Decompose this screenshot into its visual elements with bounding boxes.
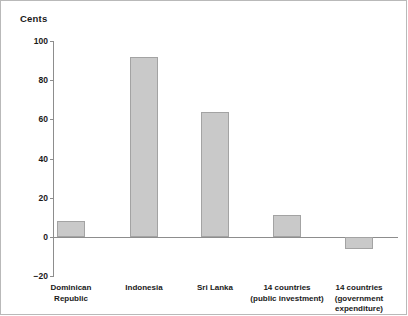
y-axis-tick-label: 80: [39, 75, 48, 85]
y-axis-tick-label: 40: [39, 154, 48, 164]
y-axis-tick-label: 100: [34, 36, 48, 46]
y-axis-tick-mark: [50, 80, 54, 81]
bar: [201, 112, 229, 237]
y-axis-tick-mark: [50, 237, 54, 238]
y-axis-tick-mark: [50, 198, 54, 199]
y-axis-tick-label: 20: [39, 193, 48, 203]
y-axis-tick-mark: [50, 119, 54, 120]
bar: [345, 237, 373, 249]
y-axis-tick-label: 60: [39, 114, 48, 124]
x-axis-tick-label: Dominican Republic: [51, 283, 92, 304]
y-axis-tick-mark: [50, 276, 54, 277]
bar: [130, 57, 158, 237]
x-axis-tick-label: Indonesia: [125, 283, 162, 294]
x-axis-tick-label: Sri Lanka: [197, 283, 233, 294]
y-axis-tick-mark: [50, 159, 54, 160]
y-axis-tick-label: 0: [43, 232, 48, 242]
bar-chart: Cents 100806040200−20 Dominican Republic…: [0, 0, 408, 316]
x-axis-tick-label: 14 countries (public investment): [250, 283, 323, 304]
bar: [273, 215, 301, 237]
x-axis-tick-label: 14 countries (government expenditure): [335, 283, 383, 315]
y-axis-tick-label: −20: [34, 271, 48, 281]
y-axis-tick-mark: [50, 41, 54, 42]
y-axis-tick-labels: 100806040200−20: [0, 0, 48, 316]
bar: [57, 221, 85, 237]
